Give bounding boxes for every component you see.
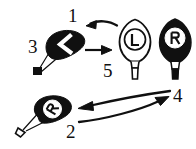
arrow-4-upper-head	[78, 102, 94, 111]
label-step-5: 5	[103, 61, 113, 80]
arrow-1-curved-left	[86, 21, 117, 29]
label-step-4: 4	[173, 86, 183, 105]
arrow-straight-right	[85, 46, 112, 55]
arrow-4-lower-head	[155, 97, 169, 106]
balloon-5-basket	[132, 68, 138, 79]
balloon-5-group	[120, 20, 151, 80]
balloon-r-basket	[172, 69, 179, 79]
label-step-3: 3	[28, 37, 38, 56]
balloon-r-upright-group	[160, 19, 192, 79]
balloon-r-skirt	[171, 62, 180, 69]
label-step-2: 2	[66, 122, 76, 141]
arrow-4-upper-left	[78, 91, 170, 111]
balloon-5-letter-ring	[125, 29, 146, 50]
balloon-5-skirt	[131, 62, 139, 69]
diagram-canvas	[0, 0, 196, 149]
arrow-straight-head	[102, 46, 113, 55]
balloon-3-envelope	[46, 30, 85, 59]
balloon-3-group	[33, 30, 85, 75]
label-step-1: 1	[68, 6, 78, 25]
balloon-diagram: 1 2 3 4 5	[0, 0, 196, 149]
balloon-3-basket	[33, 67, 42, 75]
balloon-2-group	[16, 96, 72, 137]
